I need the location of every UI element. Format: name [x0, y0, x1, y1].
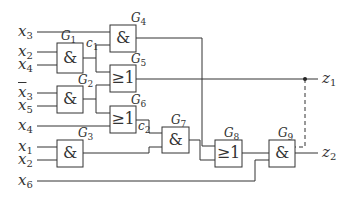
gate-label-g1: G1: [61, 30, 76, 45]
gate-symbol-g3: &: [57, 145, 83, 161]
gate-label-g3: G3: [78, 127, 93, 142]
gate-label-g2: G2: [78, 74, 93, 89]
input-label-x3: x3: [18, 24, 33, 41]
gate-label-g4: G4: [131, 12, 146, 27]
input-label-x5: x5: [18, 98, 33, 115]
gate-symbol-g1: &: [57, 50, 83, 66]
input-label-x4b: x4: [18, 118, 33, 135]
gate-symbol-g4: &: [110, 30, 136, 46]
gate-symbol-g6: ≥1: [110, 111, 136, 127]
wire-g3-g7: [83, 147, 162, 153]
gate-symbol-g8: ≥1: [215, 145, 242, 161]
gate-label-g8: G8: [224, 127, 239, 142]
node-label-c1: c1: [86, 37, 98, 52]
gate-symbol-g5: ≥1: [110, 70, 136, 86]
logic-circuit-diagram: x3 x2 x4 x3 x5 x4 x1 x2 x6 G1 G2 G3 G4 G…: [0, 0, 350, 199]
gate-symbol-g7: &: [162, 132, 189, 148]
gate-symbol-g2: &: [57, 91, 83, 107]
node-label-c2: c2: [138, 120, 150, 135]
output-label-z1: z1: [322, 71, 336, 88]
input-label-x4: x4: [18, 57, 33, 74]
output-label-z2: z2: [322, 145, 336, 162]
gate-label-g5: G5: [131, 53, 146, 68]
gate-label-g9: G9: [278, 127, 293, 142]
gate-symbol-g9: &: [269, 145, 295, 161]
input-label-x2b: x2: [18, 152, 33, 169]
gate-label-g7: G7: [171, 114, 186, 129]
input-label-x6: x6: [18, 173, 33, 190]
circuit-wires: [0, 0, 350, 199]
gate-label-g6: G6: [131, 94, 146, 109]
